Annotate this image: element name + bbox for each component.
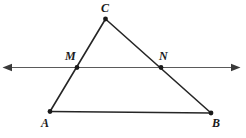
label-point-m: M [65,50,76,62]
label-point-a: A [41,117,49,129]
point-markers [48,17,214,116]
point-dot-n [159,65,164,70]
point-dot-b [209,111,214,116]
point-dot-c [103,17,108,22]
arrowhead-left-icon [3,64,13,71]
figure-canvas [0,0,246,138]
geometry-figure: C M N A B [0,0,246,138]
point-dot-a [48,109,53,114]
label-point-b: B [212,117,220,129]
transversal-line-mn [3,64,241,71]
arrowhead-right-icon [231,64,241,71]
segment-cb [106,19,212,113]
label-point-c: C [101,2,109,14]
point-dot-m [75,65,80,70]
triangle-abc [50,19,211,113]
label-point-n: N [159,50,168,62]
segment-ab [50,112,211,114]
